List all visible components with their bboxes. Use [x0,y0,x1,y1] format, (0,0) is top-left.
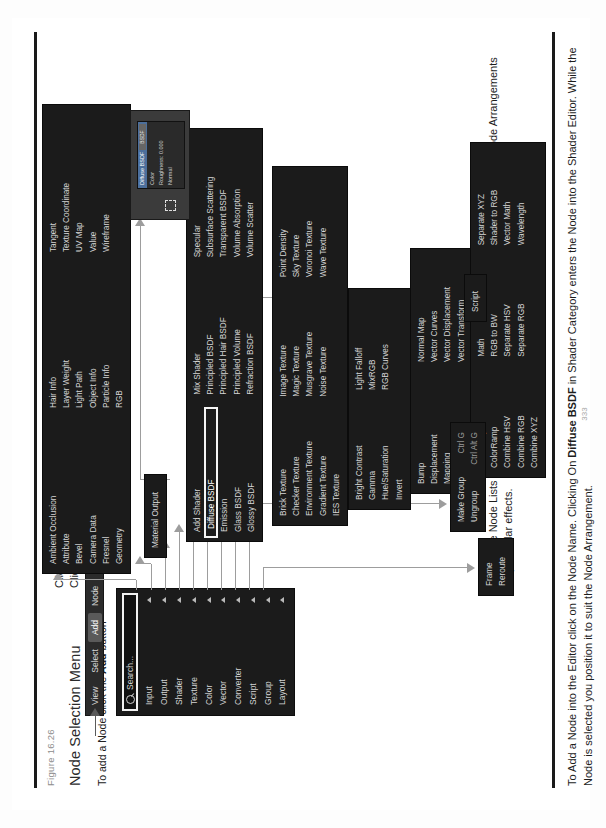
node-item[interactable]: Object Info [87,261,100,417]
node-socket-roughness[interactable]: Roughness: 0.000 [156,122,165,188]
node-item[interactable]: Light Falloff [353,289,366,399]
node-item[interactable]: Reroute [496,539,509,595]
node-item[interactable]: Separate RGB [515,254,528,365]
node-item[interactable]: RGB Curves [379,289,392,399]
node-item[interactable]: Value [87,105,100,261]
node-item[interactable]: Light Path [73,261,86,417]
node-item[interactable]: Bevel [73,417,86,573]
node-item[interactable]: Volume Absorption [231,129,244,266]
node-item[interactable]: Add Shader [191,404,204,541]
category-item-shader[interactable]: Shader [172,589,187,715]
node-item[interactable]: Principled Volume [231,266,244,403]
node-item[interactable]: MixRGB [366,289,379,399]
node-item[interactable]: Gamma [366,399,379,509]
node-item[interactable]: Frame [483,539,496,595]
category-item-converter[interactable]: Converter [231,589,246,715]
node-item[interactable]: Fresnel [100,417,113,573]
node-item[interactable]: Vector Math [501,143,514,254]
category-item-script[interactable]: Script [245,589,260,715]
node-item[interactable]: Gradient Texture [317,406,330,525]
node-item[interactable]: Sky Texture [290,167,303,286]
node-item[interactable]: Camera Data [87,417,100,573]
node-list-input[interactable]: Ambient Occlusion Attribute Bevel Camera… [42,104,131,574]
node-item[interactable]: Emission [218,404,231,541]
node-item-selected[interactable]: Diffuse BSDF [204,407,218,538]
node-item[interactable]: Wavelength [515,143,528,254]
category-item-vector[interactable]: Vector [216,589,231,715]
category-item-group[interactable]: Group [260,589,275,715]
node-item[interactable]: Subsurface Scattering [204,129,217,266]
node-item[interactable]: IES Texture [330,406,343,525]
node-item[interactable]: Volume Scatter [244,129,257,266]
node-item[interactable]: Magic Texture [290,286,303,405]
node-item[interactable]: Principled BSDF [204,266,217,403]
node-item[interactable]: Specular [191,129,204,266]
node-item[interactable]: Attribute [60,417,73,573]
node-list-group[interactable]: Make Group Ctrl G Ungroup Ctrl Alt G [450,422,486,532]
node-item[interactable]: Hair Info [47,261,60,417]
node-item[interactable]: Brick Texture [277,406,290,525]
menu-item-select[interactable]: Select [88,642,102,680]
node-item[interactable]: Normal Map [415,249,428,371]
node-item[interactable]: Glass BSDF [232,404,245,541]
node-item[interactable]: Principled Hair BSDF [217,266,230,403]
node-item[interactable]: Invert [393,399,406,509]
search-input[interactable]: Search... [122,593,138,711]
node-item[interactable]: Texture Coordinate [60,105,73,261]
category-item-texture[interactable]: Texture [186,589,201,715]
node-item[interactable]: Layer Weight [60,261,73,417]
node-item[interactable]: Shader to RGB [488,143,501,254]
node-item[interactable]: Wave Texture [317,167,330,286]
node-item[interactable]: Ungroup Ctrl Alt G [468,423,481,531]
node-item[interactable]: Geometry [113,417,126,573]
node-item[interactable]: Vector Curves [428,249,441,371]
node-item[interactable]: Checker Texture [290,406,303,525]
node-item[interactable]: Tangent [47,105,60,261]
node-item[interactable]: Combine HSV [501,366,514,477]
node-item[interactable]: Refraction BSDF [244,266,257,403]
category-item-input[interactable]: Input [142,589,157,715]
menu-item-add[interactable]: Add [88,613,102,642]
node-item[interactable]: RGB to BW [488,254,501,365]
node-list-output[interactable]: Material Output [144,474,167,558]
node-list-script[interactable]: Script [464,274,487,322]
node-item[interactable]: Combine XYZ [528,366,541,477]
node-item[interactable]: Bright Contrast [353,399,366,509]
node-item[interactable]: ColorRamp [488,366,501,477]
node-list-color[interactable]: Bright Contrast Gamma Hue/Saturation Inv… [348,288,411,510]
node-item[interactable]: Glossy BSDF [245,404,258,541]
node-list-texture[interactable]: Brick Texture Checker Texture Environmen… [272,166,348,526]
category-item-output[interactable]: Output [157,589,172,715]
node-item[interactable]: Hue/Saturation [379,399,392,509]
node-category-menu[interactable]: Search... Input Output Shader Texture Co… [116,588,295,716]
node-item[interactable]: Displacement [428,371,441,493]
node-item[interactable]: RGB [113,261,126,417]
node-item[interactable]: Make Group Ctrl G [455,423,468,531]
node-list-layout[interactable]: Frame Reroute [478,538,514,596]
node-item[interactable]: Voronoi Texture [303,167,316,286]
category-item-color[interactable]: Color [201,589,216,715]
diffuse-bsdf-node[interactable]: Diffuse BSDF BSDF Color Roughness: 0.000… [137,121,185,189]
node-item[interactable]: Vector Displacement [441,249,454,371]
node-item[interactable]: Image Texture [277,286,290,405]
category-item-layout[interactable]: Layout [275,589,290,715]
node-item[interactable]: Mix Shader [191,266,204,403]
node-item[interactable]: Separate XYZ [475,143,488,254]
node-item[interactable]: Separate HSV [501,254,514,365]
node-item[interactable]: UV Map [73,105,86,261]
node-item[interactable]: Bump [415,371,428,493]
node-item[interactable]: Particle Info [100,261,113,417]
node-item[interactable]: Ambient Occlusion [47,417,60,573]
node-item[interactable]: Noise Texture [317,286,330,405]
node-list-shader[interactable]: Add Shader Diffuse BSDF Emission Glass B… [186,128,263,542]
node-item[interactable]: Material Output [149,475,162,557]
node-item[interactable]: Combine RGB [515,366,528,477]
node-item[interactable]: Wireframe [100,105,113,261]
node-item[interactable]: Point Density [277,167,290,286]
menu-item-node[interactable]: Node [88,579,102,613]
node-item[interactable]: Transparent BSDF [217,129,230,266]
node-item[interactable]: Environment Texture [303,406,316,525]
node-socket-normal[interactable]: Normal [165,122,174,188]
node-item[interactable]: Script [469,275,482,321]
node-item[interactable]: Musgrave Texture [303,286,316,405]
